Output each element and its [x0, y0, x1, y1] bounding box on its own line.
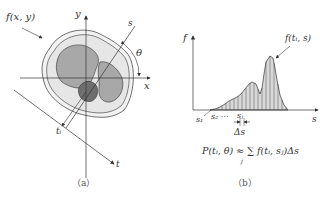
- fxy-pointer: [22, 28, 42, 38]
- panel-b: f s f(tᵢ, s) s₁ s₂ ··· sⱼ Δs P(tᵢ, θ) ≈ …: [182, 32, 318, 188]
- curve-label: f(tᵢ, s): [284, 33, 312, 43]
- theta-label: θ: [136, 47, 142, 58]
- s2-label: s₂ ···: [211, 112, 228, 121]
- caption-a: （a）: [72, 178, 95, 188]
- s-axis-label: s: [128, 18, 133, 28]
- s-axis-b-label: s: [312, 114, 317, 124]
- sj-label: sⱼ: [237, 111, 244, 120]
- t-axis-label: t: [116, 159, 120, 169]
- caption-b: （b）: [233, 178, 257, 188]
- fxy-label: f(x, y): [5, 11, 35, 22]
- formula-subscript: j: [239, 157, 243, 165]
- s1-label: s₁: [196, 115, 203, 124]
- formula: P(tᵢ, θ) ≈ ∑ f(tᵢ, sⱼ)Δs: [201, 145, 299, 156]
- projection-diagram: f(x, y) y x s θ tᵢ t （a）: [0, 0, 324, 199]
- s1-pointer: [204, 110, 211, 116]
- panel-a: f(x, y) y x s θ tᵢ t （a）: [5, 8, 150, 188]
- projection-profile: [210, 56, 288, 110]
- delta-s-label: Δs: [233, 127, 245, 137]
- curve-pointer: [276, 46, 290, 58]
- f-axis-label: f: [182, 32, 189, 43]
- x-axis-label: x: [144, 80, 150, 91]
- y-axis-label: y: [74, 8, 81, 19]
- ti-label: tᵢ: [56, 126, 62, 136]
